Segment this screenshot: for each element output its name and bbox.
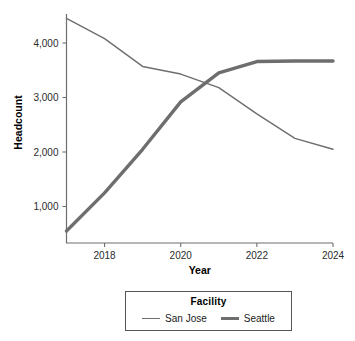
- y-tick-label-4000: 4,000: [33, 38, 58, 49]
- y-tick-label-1000: 1,000: [33, 201, 58, 212]
- chart-page: 1,0002,0003,0004,0002018202020222024Year…: [0, 0, 355, 341]
- y-axis-title: Headcount: [12, 95, 24, 150]
- line-chart: 1,0002,0003,0004,0002018202020222024Year…: [0, 0, 355, 341]
- x-tick-label-2018: 2018: [93, 250, 116, 261]
- legend-entry-seattle[interactable]: Seattle: [221, 313, 275, 324]
- x-tick-label-2020: 2020: [170, 250, 193, 261]
- legend-entry-san-jose[interactable]: San Jose: [142, 313, 207, 324]
- x-tick-label-2022: 2022: [246, 250, 269, 261]
- series-line-seattle[interactable]: [67, 61, 334, 231]
- plot-area: 1,0002,0003,0004,0002018202020222024Year…: [12, 14, 345, 276]
- legend-swatch-icon-seattle: [221, 317, 239, 321]
- x-tick-label-2024: 2024: [322, 250, 345, 261]
- x-axis-title: Year: [189, 264, 211, 276]
- y-tick-label-3000: 3,000: [33, 92, 58, 103]
- legend-label-san-jose: San Jose: [165, 313, 207, 324]
- axis-spines: [67, 14, 334, 243]
- legend-label-seattle: Seattle: [244, 313, 275, 324]
- series-line-san-jose[interactable]: [67, 18, 334, 149]
- legend-entries: San Jose Seattle: [126, 313, 291, 324]
- legend: Facility San Jose Seattle: [125, 291, 292, 331]
- legend-swatch-icon-san-jose: [142, 318, 160, 320]
- y-tick-label-2000: 2,000: [33, 147, 58, 158]
- legend-title: Facility: [126, 296, 291, 307]
